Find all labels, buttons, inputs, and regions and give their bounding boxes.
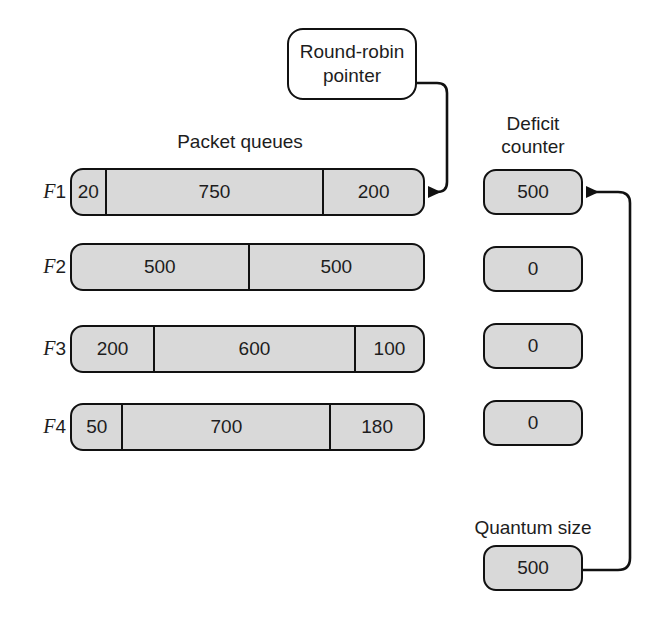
- flow-label-f2-number: 2: [55, 256, 66, 277]
- packet-f4-1: 700: [121, 405, 329, 449]
- deficit-counter-1: 500: [483, 169, 583, 215]
- deficit-counter-3: 0: [483, 323, 583, 369]
- packet-f2-0-size: 500: [144, 256, 176, 278]
- packet-queue-f3: 200 600 100: [70, 325, 425, 373]
- flow-label-f1: F1: [32, 182, 66, 201]
- packet-queue-f1: 20 750 200: [70, 168, 425, 216]
- connector-quantum-to-deficit: [583, 192, 630, 570]
- flow-label-f4-prefix: F: [43, 415, 55, 437]
- packet-f4-2: 180: [329, 405, 423, 449]
- packet-queue-f2: 500 500: [70, 243, 425, 291]
- packet-f3-2-size: 100: [374, 338, 406, 360]
- flow-label-f3: F3: [32, 339, 66, 358]
- packet-queues-title: Packet queues: [110, 130, 370, 153]
- deficit-counter-3-value: 0: [528, 335, 539, 357]
- round-robin-pointer-label: Round-robin pointer: [300, 40, 405, 88]
- deficit-counter-4-value: 0: [528, 412, 539, 434]
- flow-label-f2: F2: [32, 257, 66, 276]
- packet-f1-0: 20: [72, 170, 105, 214]
- dwrr-scheduler-diagram: Packet queues Deficit counter Quantum si…: [0, 0, 664, 622]
- flow-label-f4: F4: [32, 417, 66, 436]
- flow-label-f3-prefix: F: [43, 337, 55, 359]
- packet-f3-1-size: 600: [239, 338, 271, 360]
- deficit-counter-title: Deficit counter: [473, 112, 593, 158]
- quantum-size-title: Quantum size: [463, 516, 603, 539]
- flow-label-f1-prefix: F: [43, 180, 55, 202]
- packet-f2-1: 500: [248, 245, 424, 289]
- packet-f2-1-size: 500: [320, 256, 352, 278]
- packet-f3-0: 200: [72, 327, 153, 371]
- packet-f3-1: 600: [153, 327, 354, 371]
- flow-label-f4-number: 4: [55, 416, 66, 437]
- packet-f1-2-size: 200: [358, 181, 390, 203]
- round-robin-pointer-callout: Round-robin pointer: [287, 28, 417, 100]
- packet-f1-0-size: 20: [78, 181, 99, 203]
- quantum-size-box: 500: [483, 545, 583, 591]
- deficit-counter-2: 0: [483, 246, 583, 292]
- packet-f4-2-size: 180: [361, 416, 393, 438]
- packet-f3-0-size: 200: [97, 338, 129, 360]
- flow-label-f1-number: 1: [55, 181, 66, 202]
- packet-f1-1-size: 750: [199, 181, 231, 203]
- packet-f3-2: 100: [354, 327, 423, 371]
- deficit-counter-1-value: 500: [517, 181, 549, 203]
- packet-f4-1-size: 700: [211, 416, 243, 438]
- flow-label-f2-prefix: F: [43, 255, 55, 277]
- packet-queue-f4: 50 700 180: [70, 403, 425, 451]
- packet-f4-0-size: 50: [86, 416, 107, 438]
- deficit-counter-2-value: 0: [528, 258, 539, 280]
- deficit-counter-4: 0: [483, 400, 583, 446]
- packet-f1-1: 750: [105, 170, 323, 214]
- flow-label-f3-number: 3: [55, 338, 66, 359]
- packet-f4-0: 50: [72, 405, 121, 449]
- packet-f1-2: 200: [322, 170, 423, 214]
- packet-f2-0: 500: [72, 245, 248, 289]
- quantum-size-value: 500: [517, 557, 549, 579]
